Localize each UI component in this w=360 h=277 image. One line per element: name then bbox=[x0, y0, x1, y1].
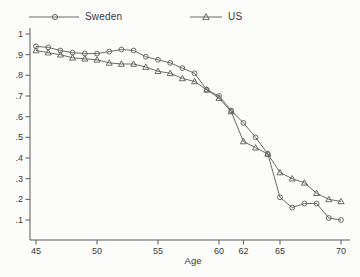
y-tick-label: .5 bbox=[15, 132, 23, 142]
x-tick-label: 62 bbox=[238, 246, 248, 256]
x-tick-label: 45 bbox=[31, 246, 41, 256]
x-tick-label: 55 bbox=[153, 246, 163, 256]
legend-item-us: US bbox=[190, 11, 242, 23]
y-tick-label: .7 bbox=[15, 91, 23, 101]
sweden-line bbox=[36, 46, 341, 220]
y-tick-label: .2 bbox=[15, 194, 23, 204]
y-tick-label: .9 bbox=[15, 50, 23, 60]
x-tick-label: 50 bbox=[92, 246, 102, 256]
x-tick-label: 70 bbox=[336, 246, 346, 256]
y-tick-label: .1 bbox=[15, 215, 23, 225]
y-tick-label: .3 bbox=[15, 174, 23, 184]
y-tick-label: .6 bbox=[15, 112, 23, 122]
x-axis-title: Age bbox=[185, 255, 202, 266]
y-tick-label: .8 bbox=[15, 70, 23, 80]
legend-label-us: US bbox=[228, 11, 242, 23]
us-line bbox=[36, 51, 341, 202]
triangle-marker-icon bbox=[190, 11, 222, 23]
circle-marker-icon bbox=[29, 11, 79, 23]
x-tick-label: 65 bbox=[275, 246, 285, 256]
chart-canvas: 1.9.8.7.6.5.4.3.2.145505560626570Age bbox=[0, 0, 360, 277]
y-tick-label: 1 bbox=[18, 29, 23, 39]
legend-label-sweden: Sweden bbox=[85, 11, 122, 23]
legend-item-sweden: Sweden bbox=[29, 11, 122, 23]
employment-by-age-line-chart: 1.9.8.7.6.5.4.3.2.145505560626570Age Swe… bbox=[0, 0, 360, 277]
x-tick-label: 60 bbox=[214, 246, 224, 256]
y-tick-label: .4 bbox=[15, 153, 23, 163]
